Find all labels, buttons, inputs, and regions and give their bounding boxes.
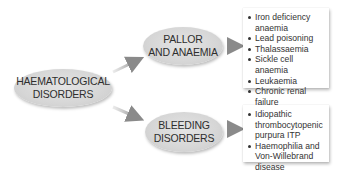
node-pallor-and-anaemia: PALLOR AND ANAEMIA [143,27,223,65]
list-item: Idiopathic thrombocytopenic purpura ITP [248,109,324,141]
arrow-root-to-bleeding [113,107,136,117]
list-item: Haemophilia and Von-Willebrand disease [248,141,324,173]
node-label-line2: AND ANAEMIA [148,46,218,59]
list-item: Leukaemia [248,76,324,87]
list-item: Iron deficiency anaemia [248,12,324,33]
pallor-causes-list: Iron deficiency anaemia Lead poisoning T… [243,8,329,88]
list-item: Thalassaemia [248,44,324,55]
node-label-line1: PALLOR [163,33,202,46]
node-bleeding-disorders: BLEEDING DISORDERS [145,112,223,152]
node-label-line1: HAEMATOLOGICAL [16,75,110,88]
arrow-root-to-pallor [113,61,136,72]
bleeding-causes-list: Idiopathic thrombocytopenic purpura ITP … [243,105,329,162]
node-haematological-disorders: HAEMATOLOGICAL DISORDERS [14,69,112,107]
node-label-line2: DISORDERS [154,132,215,145]
node-label-line1: BLEEDING [158,119,210,132]
list-item: Sickle cell anaemia [248,54,324,75]
list-item: Lead poisoning [248,33,324,44]
node-label-line2: DISORDERS [33,88,94,101]
